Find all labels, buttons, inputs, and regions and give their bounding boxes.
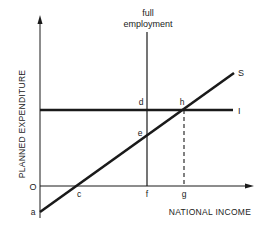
y-axis-label: PLANNED EXPENDITURE [17, 70, 27, 179]
point-a-label: a [31, 207, 36, 217]
point-h-label: h [180, 97, 185, 107]
point-d-label: d [139, 97, 144, 107]
savings-investment-diagram: PLANNED EXPENDITURE NATIONAL INCOME O fu… [0, 0, 269, 227]
investment-line-label: I [238, 106, 241, 116]
origin-label: O [29, 182, 36, 192]
point-f-label: f [146, 189, 149, 199]
x-axis-arrow-icon [245, 184, 254, 189]
y-axis [38, 15, 43, 218]
y-axis-arrow-icon [38, 15, 43, 24]
x-axis-label: NATIONAL INCOME [169, 207, 251, 217]
full-employment-label-line1: full [142, 8, 154, 18]
point-e-label: e [138, 128, 143, 138]
savings-line-label: S [238, 68, 244, 78]
point-c-label: c [77, 189, 82, 199]
point-g-label: g [182, 189, 187, 199]
savings-line [40, 73, 234, 212]
full-employment-label-line2: employment [123, 19, 173, 29]
